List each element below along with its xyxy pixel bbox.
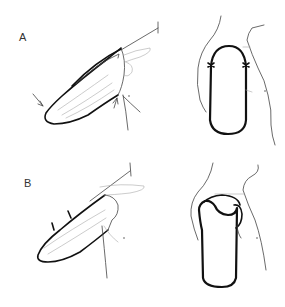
panel-b-anterior bbox=[191, 163, 266, 287]
panel-a-anterior bbox=[197, 16, 275, 145]
illustration bbox=[0, 0, 285, 307]
panel-a-lateral-arm bbox=[33, 22, 158, 130]
figure: A B bbox=[0, 0, 285, 307]
panel-b-lateral-arm bbox=[38, 163, 145, 278]
